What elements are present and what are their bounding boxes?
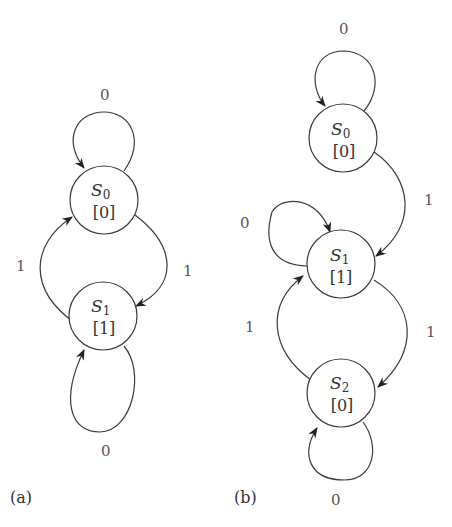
edge-b-s2-s1-label: 1: [245, 318, 255, 336]
state-a-s1: S1 [1]: [69, 282, 137, 350]
state-b-s0-output: [0]: [333, 142, 356, 161]
edge-b-s2-s1: [277, 276, 311, 380]
edge-a-s1-self: [71, 346, 135, 432]
edge-a-s0-self: [73, 112, 134, 171]
state-b-s1: S1 [1]: [307, 230, 375, 298]
edge-b-s2-self-label: 0: [331, 491, 341, 509]
edge-b-s0-s1-label: 1: [424, 191, 434, 209]
edge-a-s1-s0-label: 1: [16, 257, 26, 275]
edge-b-s2-self: [309, 422, 373, 480]
caption-a: (a): [10, 488, 32, 507]
edge-a-s0-s1: [135, 215, 167, 306]
edge-b-s1-s2-label: 1: [426, 323, 436, 341]
state-a-s1-output: [1]: [93, 319, 116, 338]
edge-a-s1-self-label: 0: [101, 442, 111, 460]
state-a-s0: S0 [0]: [70, 166, 138, 234]
state-b-s1-output: [1]: [330, 268, 353, 287]
edge-a-s0-s1-label: 1: [183, 262, 193, 280]
edge-b-s0-self-label: 0: [339, 20, 349, 38]
diagram-a: 0 1 1 0 S0 [0] S1 [1] (a): [10, 86, 193, 507]
edge-b-s1-s2: [374, 280, 407, 387]
caption-b: (b): [234, 488, 257, 507]
edge-a-s0-self-label: 0: [100, 86, 110, 104]
state-a-s0-output: [0]: [93, 203, 116, 222]
state-diagrams: 0 1 1 0 S0 [0] S1 [1] (a) 0 1: [0, 0, 452, 527]
state-b-s2-output: [0]: [331, 396, 354, 415]
edge-b-s1-self-label: 0: [240, 214, 250, 232]
state-b-s0: S0 [0]: [309, 104, 377, 172]
edge-b-s0-s1: [374, 152, 405, 256]
state-b-s2: S2 [0]: [307, 359, 375, 427]
diagram-b: 0 1 0 1 1 0 S0 [0] S1 [1] S2: [234, 20, 436, 509]
edge-b-s0-self: [315, 51, 375, 111]
